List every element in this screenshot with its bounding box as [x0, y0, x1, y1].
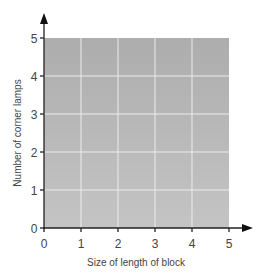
svg-text:5: 5 [226, 237, 233, 251]
y-axis-label: Number of corner lamps [12, 79, 23, 186]
svg-text:4: 4 [31, 70, 38, 84]
svg-text:2: 2 [31, 146, 38, 160]
y-tick-labels: 0 1 2 3 4 5 [31, 32, 38, 236]
svg-text:0: 0 [31, 222, 38, 236]
svg-text:1: 1 [31, 184, 38, 198]
x-tick-labels: 0 1 2 3 4 5 [41, 237, 233, 251]
svg-text:3: 3 [152, 237, 159, 251]
svg-text:4: 4 [189, 237, 196, 251]
svg-text:5: 5 [31, 32, 38, 46]
svg-text:0: 0 [41, 237, 48, 251]
svg-text:2: 2 [115, 237, 122, 251]
x-axis-label: Size of length of block [87, 257, 186, 268]
plot-area [44, 38, 229, 228]
svg-text:3: 3 [31, 108, 38, 122]
svg-text:1: 1 [78, 237, 85, 251]
chart-canvas: 0 1 2 3 4 5 0 1 2 3 4 5 Size of length o… [0, 0, 266, 279]
